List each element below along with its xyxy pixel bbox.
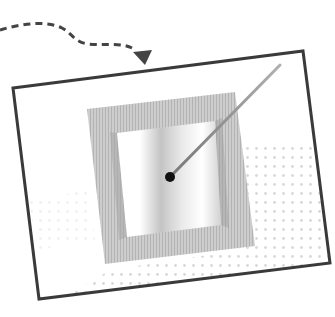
illustration-canvas — [0, 0, 335, 317]
dashed-arrow-path — [0, 24, 132, 48]
dashed-arrow — [0, 24, 152, 65]
arrow-head-icon — [133, 50, 152, 65]
target-dot — [165, 172, 175, 182]
